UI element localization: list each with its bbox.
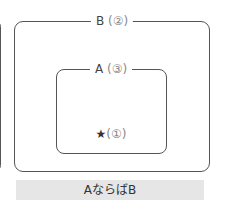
set-a-label: A (③) xyxy=(90,62,132,76)
star-icon: ★ xyxy=(96,127,107,141)
set-b-label: B (②) xyxy=(91,14,133,28)
diagram-caption: AならばB xyxy=(16,180,204,200)
element-marker: (①) xyxy=(106,127,126,141)
adjacent-panel-edge xyxy=(0,21,1,171)
set-a-box xyxy=(56,69,167,154)
set-a-name: A xyxy=(95,62,103,76)
set-a-marker: (③) xyxy=(107,62,127,76)
set-b-marker: (②) xyxy=(108,14,128,28)
set-b-name: B xyxy=(96,14,104,28)
element-label: ★(①) xyxy=(96,127,127,141)
